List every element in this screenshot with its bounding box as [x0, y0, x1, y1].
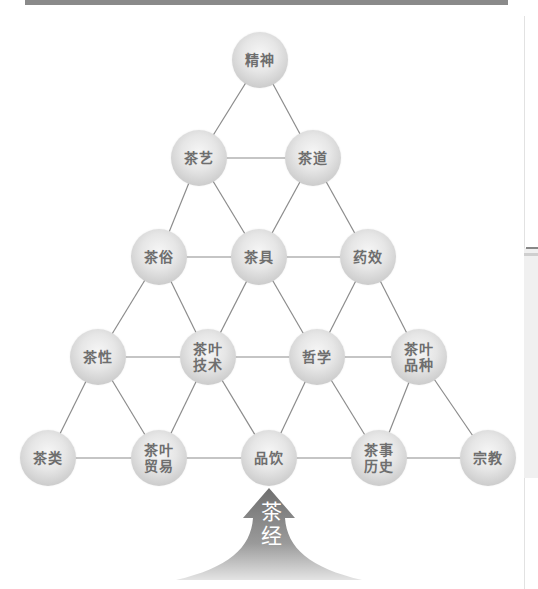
tea-classic-label: 茶 经 [258, 500, 284, 548]
node-chasu: 茶俗 [131, 229, 187, 285]
node-label: 茶艺 [184, 150, 214, 166]
node-chaye_jishu: 茶叶 技术 [180, 329, 236, 385]
node-chashi_lishi: 茶事 历史 [351, 430, 407, 486]
node-label: 药效 [353, 249, 383, 265]
node-label: 哲学 [302, 349, 332, 365]
node-label: 宗教 [473, 450, 503, 466]
node-label: 茶具 [244, 249, 274, 265]
node-label: 精神 [245, 52, 275, 68]
node-label: 茶性 [83, 349, 113, 365]
node-pinyin: 品饮 [241, 430, 297, 486]
node-chaye_maoyi: 茶叶 贸易 [131, 430, 187, 486]
node-label: 茶叶 贸易 [144, 442, 174, 474]
node-yaoxiao: 药效 [340, 229, 396, 285]
node-zhexue: 哲学 [289, 329, 345, 385]
node-chayi: 茶艺 [171, 130, 227, 186]
node-chaju: 茶具 [231, 229, 287, 285]
node-label: 茶叶 品种 [404, 341, 434, 373]
node-label: 品饮 [254, 450, 284, 466]
node-label: 茶俗 [144, 249, 174, 265]
node-label: 茶事 历史 [364, 442, 394, 474]
node-chaye_pinzhong: 茶叶 品种 [391, 329, 447, 385]
node-label: 茶道 [298, 150, 328, 166]
node-chalei: 茶类 [20, 430, 76, 486]
node-zongjiao: 宗教 [460, 430, 516, 486]
node-chaxing: 茶性 [70, 329, 126, 385]
node-chadao: 茶道 [285, 130, 341, 186]
node-jingshen: 精神 [232, 32, 288, 88]
node-label: 茶类 [33, 450, 63, 466]
node-label: 茶叶 技术 [193, 341, 223, 373]
